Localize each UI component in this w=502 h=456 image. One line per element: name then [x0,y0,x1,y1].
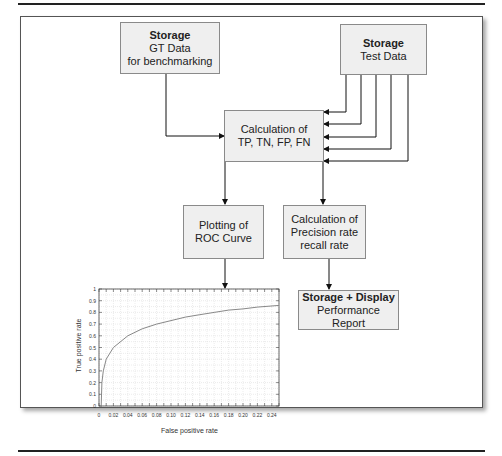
y-tick-label: 1 [84,286,96,292]
roc-chart [0,0,502,456]
y-tick-label: 0.8 [84,309,96,315]
y-tick-label: 0.5 [84,345,96,351]
x-axis-title: False positive rate [161,427,218,434]
y-tick-label: 0.6 [84,333,96,339]
y-tick-label: 0.7 [84,321,96,327]
x-tick-label: 0.24 [262,412,282,418]
y-tick-label: 0.4 [84,356,96,362]
y-tick-label: 0.1 [84,391,96,397]
y-tick-label: 0.2 [84,380,96,386]
y-tick-label: 0 [84,403,96,409]
y-axis-title: True positive rate [75,319,82,373]
y-tick-label: 0.9 [84,298,96,304]
y-tick-label: 0.3 [84,368,96,374]
bottom-rule [18,450,485,452]
